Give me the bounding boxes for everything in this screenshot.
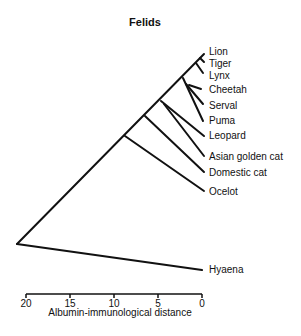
felid-trunk-branch [17, 54, 204, 244]
leaf-label-serval: Serval [209, 100, 237, 112]
leaf-label-ocelot: Ocelot [209, 186, 238, 198]
leaf-label-lynx: Lynx [209, 70, 230, 82]
leaf-label-hyaena: Hyaena [209, 264, 243, 276]
leaf-label-puma: Puma [209, 115, 235, 127]
leaf-label-leopard: Leopard [209, 130, 246, 142]
leaf-label-tiger: Tiger [209, 58, 231, 70]
tiger-branch [200, 58, 204, 62]
leopard-branch [161, 101, 204, 136]
leaf-label-asian-golden-cat: Asian golden cat [209, 151, 283, 163]
leaf-label-lion: Lion [209, 46, 228, 58]
axis-tick-20: 20 [20, 298, 31, 309]
axis-tick-0: 0 [199, 298, 205, 309]
leaf-label-domestic-cat: Domestic cat [209, 167, 267, 179]
leaf-label-cheetah: Cheetah [209, 84, 247, 96]
ocelot-branch [125, 136, 204, 191]
axis-label: Albumin-immunological distance [40, 307, 200, 318]
lynx-branch [196, 63, 203, 73]
hyaena-branch [17, 244, 202, 270]
